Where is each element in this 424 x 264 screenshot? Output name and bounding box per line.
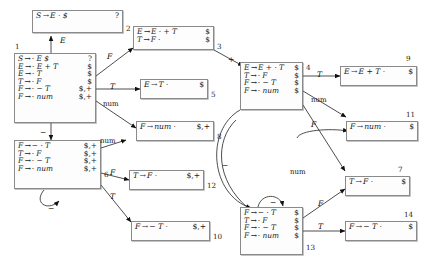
item-row: F → · num $,+: [18, 93, 92, 101]
item-lookahead: $: [403, 223, 413, 231]
state-10[interactable]: F → − T · $,+: [131, 221, 210, 241]
item-rhs: num ·: [364, 123, 386, 131]
edge-label-4-num: num: [311, 96, 327, 104]
edge-label-4-F: F: [311, 120, 316, 129]
state-number-12: 12: [207, 181, 216, 190]
edge-label-13-self: −: [270, 198, 276, 207]
item-row: F → · num $,+: [18, 165, 97, 173]
prod-arrow-icon: →: [140, 223, 149, 231]
state-5[interactable]: E → T · $: [140, 79, 208, 99]
item-rhs: F ·: [147, 172, 157, 180]
state-12[interactable]: T → F · $,+: [129, 170, 204, 190]
state-number-2: 2: [126, 24, 131, 33]
edge-label-13-F: F: [318, 199, 323, 208]
item-rhs: F ·: [363, 178, 373, 186]
edge-label-1-num: num: [103, 100, 119, 108]
prod-arrow-icon: →: [355, 123, 364, 131]
item-row: T → F · $: [349, 178, 406, 186]
state-13[interactable]: F → − · T $ T → · F $ F → · − T $ F → · …: [240, 207, 303, 255]
item-rhs: T ·: [158, 81, 168, 89]
edge-label-1-minus: −: [40, 128, 46, 137]
state-number-9: 9: [406, 54, 411, 63]
item-row: T → F · $: [137, 36, 210, 44]
state-number-14: 14: [404, 210, 413, 219]
item-row: F → − T · $: [349, 223, 413, 231]
item-row: F → − T · $,+: [135, 223, 206, 231]
item-row: F → · num $: [244, 232, 299, 240]
item-row: F → num · $,+: [140, 123, 210, 131]
prod-arrow-icon: →: [354, 178, 363, 186]
item-rhs: · num: [32, 165, 53, 173]
state-8[interactable]: F → num · $,+: [136, 121, 214, 141]
item-lookahead: $: [404, 123, 414, 131]
state-9[interactable]: E → E + T · $: [340, 66, 417, 86]
prod-arrow-icon: →: [23, 93, 32, 101]
edge-label-1-T: T: [110, 82, 115, 91]
item-lookahead: $: [396, 178, 406, 186]
item-lookahead: $,+: [191, 123, 210, 131]
state-6[interactable]: F → − · T $,+ T → · F $,+ F → · − T $,+ …: [14, 140, 101, 189]
edge-4-to-11: [303, 91, 346, 117]
edge-13-to-7: [303, 189, 345, 218]
item-row: F → num · $: [350, 123, 414, 131]
edge-label-13-T: T: [318, 222, 323, 231]
prod-arrow-icon: →: [145, 123, 154, 131]
item-lookahead: $,+: [79, 165, 97, 173]
item-rhs: num ·: [154, 123, 176, 131]
edge-label-4-T: T: [317, 70, 322, 79]
item-row: S → E · $ ?: [36, 12, 119, 20]
state-number-7: 7: [398, 165, 403, 174]
automaton-diagram: S → E · $ ? 2 S → · E $ ? E → · E + T $ …: [0, 0, 424, 264]
state-number-11: 11: [406, 110, 415, 119]
state-number-5: 5: [211, 90, 216, 99]
state-3[interactable]: E → E · + T $ T → F · $: [133, 26, 214, 50]
state-7[interactable]: T → F · $: [345, 176, 410, 196]
item-rhs: E · $: [50, 12, 68, 20]
item-lookahead: $,+: [187, 223, 206, 231]
prod-arrow-icon: →: [249, 232, 258, 240]
item-lookahead: $: [403, 68, 413, 76]
edge-label-3-plus: +: [228, 55, 234, 64]
prod-arrow-icon: →: [354, 223, 363, 231]
prod-arrow-icon: →: [249, 87, 258, 95]
edge-label-6-num: num: [100, 137, 116, 145]
item-lookahead: $: [200, 36, 210, 44]
item-row: E → E + T · $: [344, 68, 413, 76]
item-lookahead: $: [289, 87, 299, 95]
edge-label-4-minus: −: [222, 161, 228, 170]
item-rhs: F ·: [151, 36, 161, 44]
prod-arrow-icon: →: [23, 165, 32, 173]
edge-label-1-E: E: [60, 36, 66, 45]
item-row: E → T · $: [144, 81, 204, 89]
item-rhs: − T ·: [363, 223, 382, 231]
state-2[interactable]: S → E · $ ?: [32, 10, 123, 33]
state-number-6: 6: [104, 170, 109, 179]
state-11[interactable]: F → num · $: [346, 121, 418, 141]
edge-4-to-7: [303, 105, 345, 171]
prod-arrow-icon: →: [138, 172, 147, 180]
state-14[interactable]: F → − T · $: [345, 221, 417, 241]
edge-1-to-3: [96, 48, 133, 76]
item-lookahead: ?: [110, 12, 119, 20]
item-row: T → F · $,+: [133, 172, 200, 180]
item-rhs: E + T ·: [358, 68, 385, 76]
edge-4-to-13: [217, 110, 251, 208]
state-number-3: 3: [217, 42, 222, 51]
item-rhs: · num: [32, 93, 53, 101]
state-1[interactable]: S → · E $ ? E → · E + T $ E → · T $ T → …: [14, 53, 96, 123]
state-number-1: 1: [15, 42, 20, 51]
edge-13-to-11: [297, 130, 348, 138]
item-rhs: − T ·: [149, 223, 168, 231]
edge-6-to-10: [101, 185, 131, 222]
item-row: F → · num $: [244, 87, 299, 95]
item-lookahead: $,+: [181, 172, 200, 180]
prod-arrow-icon: →: [150, 81, 159, 89]
state-number-13: 13: [306, 243, 315, 252]
item-rhs: · num: [258, 232, 279, 240]
state-4[interactable]: E → E + · T $ T → · F $ F → · − T $ F → …: [240, 62, 303, 110]
edge-label-1-F: F: [107, 52, 112, 61]
state-number-4: 4: [306, 63, 311, 72]
prod-arrow-icon: →: [41, 12, 50, 20]
edge-label-6-F: F: [110, 168, 115, 177]
item-rhs: · num: [258, 87, 279, 95]
